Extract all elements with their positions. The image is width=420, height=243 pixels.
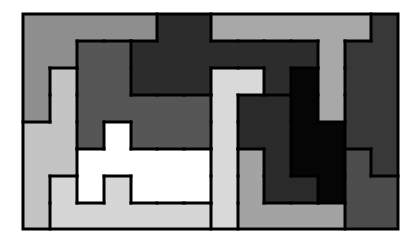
silver-t-piece-cell: [238, 14, 265, 42]
light-bottom-piece-cell: [157, 203, 185, 230]
slate-piece-cell: [131, 122, 158, 150]
black-piece-cell: [318, 149, 346, 177]
charcoal-piece-cell: [157, 14, 185, 42]
slate-piece-cell: [184, 95, 212, 123]
dark-right-piece-cell: [345, 41, 372, 69]
charcoal-piece-cell: [264, 41, 292, 69]
white-piece-cell: [104, 149, 132, 177]
pale-left-piece-cell: [50, 95, 78, 123]
medium-gray-piece-cell: [50, 41, 78, 69]
light-vertical-piece-cell: [211, 68, 239, 96]
gray-bottom-piece-cell: [264, 203, 292, 230]
white-piece-cell: [184, 149, 212, 177]
black-piece-cell: [291, 68, 319, 96]
light-bottom-piece-cell: [131, 203, 158, 230]
silver-t-piece-cell: [318, 41, 346, 69]
light-vertical-piece-cell: [211, 203, 239, 230]
dark-right-piece-cell: [371, 14, 399, 42]
dark-center-piece-cell: [291, 176, 319, 204]
dark-right-piece-cell: [345, 122, 372, 150]
dark-right-piece-cell: [345, 95, 372, 123]
medium-gray-piece-cell: [23, 95, 51, 123]
light-bottom-piece-cell: [104, 176, 132, 204]
charcoal-piece-cell: [211, 41, 239, 69]
gray-bottom-piece-cell: [318, 203, 346, 230]
white-piece-cell: [104, 122, 132, 150]
slate-piece-cell: [104, 68, 132, 96]
light-bottom-piece-cell: [50, 203, 78, 230]
dark-center-piece-cell: [238, 122, 265, 150]
slate-piece-cell: [77, 68, 105, 96]
black-piece-cell: [291, 122, 319, 150]
charcoal-piece-cell: [131, 68, 158, 96]
dark-right-piece-cell: [371, 122, 399, 150]
silver-t-piece-cell: [318, 95, 346, 123]
black-piece-cell: [291, 149, 319, 177]
dark-right-piece-cell: [371, 68, 399, 96]
dark-center-piece-cell: [238, 95, 265, 123]
white-piece-cell: [157, 176, 185, 204]
slate-piece-cell: [104, 95, 132, 123]
white-piece-cell: [131, 149, 158, 177]
gray-bottom-piece-cell: [291, 203, 319, 230]
slate-piece-cell: [157, 122, 185, 150]
silver-t-piece-cell: [211, 14, 239, 42]
dark-right-piece-cell: [345, 68, 372, 96]
light-bottom-piece-cell: [104, 203, 132, 230]
light-bottom-piece-cell: [77, 203, 105, 230]
medium-gray-piece-cell: [50, 14, 78, 42]
slate-piece-cell: [104, 41, 132, 69]
black-piece-cell: [291, 95, 319, 123]
medium-gray-piece-cell: [131, 14, 158, 42]
charcoal-piece-cell: [157, 41, 185, 69]
white-piece-cell: [131, 176, 158, 204]
medium-gray-piece-cell: [104, 14, 132, 42]
charcoal-piece-cell: [157, 68, 185, 96]
slate-piece-cell: [157, 95, 185, 123]
charcoal-piece-cell: [264, 68, 292, 96]
light-bottom-piece-cell: [50, 176, 78, 204]
white-piece-cell: [77, 176, 105, 204]
medium-gray-piece-cell: [77, 14, 105, 42]
medium-gray-piece-cell: [23, 41, 51, 69]
silver-t-piece-cell: [318, 68, 346, 96]
pale-left-piece-cell: [50, 149, 78, 177]
dark-center-piece-cell: [264, 95, 292, 123]
medium-gray-piece-cell: [23, 14, 51, 42]
dark-gray-corner-piece-cell: [345, 149, 372, 177]
black-piece-cell: [318, 176, 346, 204]
light-vertical-piece-cell: [211, 95, 239, 123]
slate-piece-cell: [131, 95, 158, 123]
dark-right-piece-cell: [371, 41, 399, 69]
charcoal-piece-cell: [184, 41, 212, 69]
dark-right-piece-cell: [371, 149, 399, 177]
silver-t-piece-cell: [264, 14, 292, 42]
light-vertical-piece-cell: [211, 176, 239, 204]
dark-gray-corner-piece-cell: [371, 203, 399, 230]
silver-t-piece-cell: [291, 14, 319, 42]
pale-left-piece-cell: [50, 122, 78, 150]
pale-left-piece-cell: [23, 203, 51, 230]
medium-gray-piece-cell: [23, 68, 51, 96]
slate-piece-cell: [77, 41, 105, 69]
dark-center-piece-cell: [264, 122, 292, 150]
dark-gray-corner-piece-cell: [345, 203, 372, 230]
light-vertical-piece-cell: [211, 122, 239, 150]
pale-left-piece-cell: [23, 176, 51, 204]
gray-bottom-piece-cell: [238, 203, 265, 230]
slate-piece-cell: [77, 122, 105, 150]
pale-left-piece-cell: [23, 122, 51, 150]
light-vertical-piece-cell: [211, 149, 239, 177]
silver-t-piece-cell: [345, 14, 372, 42]
white-piece-cell: [77, 149, 105, 177]
dark-gray-corner-piece-cell: [345, 176, 372, 204]
pale-left-piece-cell: [50, 68, 78, 96]
slate-piece-cell: [184, 122, 212, 150]
dark-center-piece-cell: [264, 176, 292, 204]
polyomino-puzzle-board: [0, 0, 420, 243]
charcoal-piece-cell: [291, 41, 319, 69]
charcoal-piece-cell: [184, 68, 212, 96]
gray-bottom-piece-cell: [238, 149, 265, 177]
light-vertical-piece-cell: [238, 68, 265, 96]
pale-left-piece-cell: [23, 149, 51, 177]
